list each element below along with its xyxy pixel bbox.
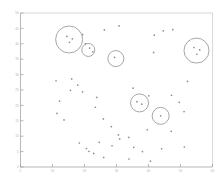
- data-point: [71, 38, 73, 40]
- data-point: [193, 47, 195, 49]
- data-point: [114, 57, 116, 59]
- data-point: [136, 101, 138, 103]
- cluster-circle: [184, 38, 209, 63]
- data-point: [111, 126, 113, 128]
- data-point: [119, 138, 121, 140]
- y-tick-label: 0: [17, 165, 19, 169]
- data-point: [196, 53, 198, 55]
- data-point: [98, 142, 100, 144]
- data-point: [118, 25, 120, 27]
- x-tick-label: 40: [147, 169, 151, 173]
- data-point: [63, 119, 65, 121]
- data-point: [103, 157, 105, 159]
- data-point: [187, 81, 189, 83]
- data-point: [77, 84, 79, 86]
- data-point: [103, 118, 105, 120]
- x-tick-label: 60: [211, 169, 215, 173]
- y-tick-label: 40: [15, 42, 19, 46]
- data-point: [70, 89, 72, 91]
- data-point: [161, 148, 163, 150]
- data-point: [132, 87, 134, 89]
- y-tick-label: 50: [15, 11, 19, 15]
- y-tick-label: 10: [15, 134, 19, 138]
- data-point: [66, 36, 68, 38]
- data-point: [162, 30, 164, 32]
- data-point: [128, 158, 130, 160]
- data-point: [96, 97, 98, 99]
- data-point: [71, 78, 73, 80]
- y-axis-ticks: 05101520253035404550: [15, 11, 23, 169]
- data-point: [142, 151, 144, 153]
- scatter-plot-figure: 0102030405060 05101520253035404550: [0, 0, 220, 183]
- data-point: [55, 80, 57, 82]
- data-point: [160, 115, 162, 117]
- y-tick-label: 45: [15, 27, 19, 31]
- y-tick-label: 20: [15, 104, 19, 108]
- data-point: [86, 148, 88, 150]
- data-point: [183, 146, 185, 148]
- cluster-circles-layer: [56, 26, 209, 124]
- data-point: [111, 145, 113, 147]
- y-tick-label: 30: [15, 73, 19, 77]
- data-point: [128, 137, 130, 139]
- data-point: [153, 52, 155, 54]
- data-point: [199, 49, 201, 51]
- data-point: [59, 100, 61, 102]
- data-point: [172, 29, 174, 31]
- data-point: [146, 129, 148, 131]
- scatter-plot-canvas: 0102030405060 05101520253035404550: [0, 0, 220, 183]
- data-point: [89, 47, 91, 49]
- data-point: [88, 150, 90, 152]
- data-point: [56, 113, 58, 115]
- cluster-circle: [82, 43, 95, 56]
- data-point: [92, 51, 94, 53]
- data-points-layer: [55, 25, 200, 162]
- y-tick-label: 15: [15, 119, 19, 123]
- data-point: [170, 130, 172, 132]
- data-point: [133, 146, 135, 148]
- data-point: [69, 41, 71, 43]
- x-tick-label: 0: [20, 169, 22, 173]
- data-point: [178, 101, 180, 103]
- data-point: [82, 91, 84, 93]
- y-tick-label: 35: [15, 57, 19, 61]
- data-point: [148, 95, 150, 97]
- y-tick-label: 25: [15, 88, 19, 92]
- cluster-circle: [56, 26, 83, 53]
- x-tick-label: 10: [51, 169, 55, 173]
- x-axis-ticks: 0102030405060: [20, 164, 215, 173]
- data-point: [79, 142, 81, 144]
- data-point: [153, 34, 155, 36]
- data-point: [95, 106, 97, 108]
- x-tick-label: 20: [83, 169, 87, 173]
- x-tick-label: 30: [115, 169, 119, 173]
- plot-frame: [21, 13, 213, 167]
- data-point: [171, 94, 173, 96]
- data-point: [118, 134, 120, 136]
- data-point: [93, 153, 95, 155]
- cluster-circle: [131, 94, 149, 112]
- y-tick-label: 5: [17, 150, 19, 154]
- data-point: [141, 103, 143, 105]
- cluster-circle: [108, 51, 124, 67]
- data-point: [183, 111, 185, 113]
- data-point: [150, 160, 152, 162]
- data-point: [103, 29, 105, 31]
- x-tick-label: 50: [179, 169, 183, 173]
